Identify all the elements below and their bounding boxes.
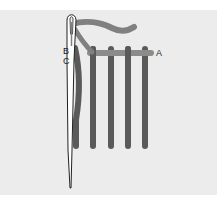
working-thread-down [75,48,79,146]
label-c: C [63,57,70,66]
label-a: A [156,49,162,58]
label-b: B [63,47,69,56]
stitch-diagram [0,0,217,199]
working-thread-top [72,22,134,31]
